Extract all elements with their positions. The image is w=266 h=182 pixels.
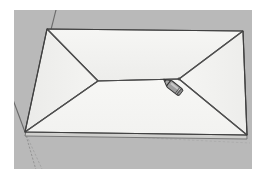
scene-canvas[interactable]	[14, 10, 252, 169]
modeling-viewport[interactable]	[14, 10, 252, 169]
axis-red-left-line	[14, 70, 25, 132]
app-window	[0, 0, 266, 182]
hip-roof-model[interactable]	[25, 29, 247, 139]
axis-blue-down-line	[25, 132, 36, 169]
inference-point-marker	[178, 78, 181, 81]
axis-green-down-right-line	[25, 132, 42, 169]
